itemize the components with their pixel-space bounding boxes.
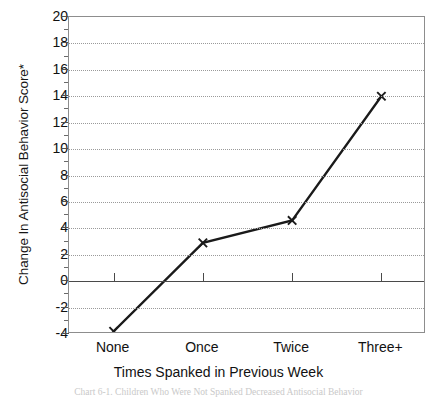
zero-baseline-tick xyxy=(203,273,204,281)
x-axis-title: Times Spanked in Previous Week xyxy=(0,364,437,380)
gridline xyxy=(69,202,424,203)
gridline xyxy=(69,43,424,44)
x-axis-tick-label: Twice xyxy=(273,339,309,355)
gridline xyxy=(69,308,424,309)
data-point-marker xyxy=(109,327,117,333)
zero-baseline-tick xyxy=(381,273,382,281)
x-axis-tick-label: None xyxy=(96,339,129,355)
zero-baseline-tick xyxy=(292,273,293,281)
series-polyline xyxy=(114,96,382,331)
x-axis-tick-label: Once xyxy=(185,339,218,355)
gridline xyxy=(69,70,424,71)
gridline xyxy=(69,123,424,124)
chart-figure: Change In Antisocial Behavior Score* 201… xyxy=(0,0,437,398)
gridline xyxy=(69,149,424,150)
y-axis-title: Change In Antisocial Behavior Score* xyxy=(16,10,31,340)
plot-area xyxy=(68,16,425,333)
gridline xyxy=(69,255,424,256)
gridline xyxy=(69,96,424,97)
zero-baseline xyxy=(69,281,424,282)
x-axis-tick-label: Three+ xyxy=(358,339,403,355)
figure-caption: Chart 6-1. Children Who Were Not Spanked… xyxy=(0,387,437,397)
y-axis-major-tick xyxy=(61,333,69,334)
gridline xyxy=(69,176,424,177)
zero-baseline-tick xyxy=(114,273,115,281)
gridline xyxy=(69,228,424,229)
